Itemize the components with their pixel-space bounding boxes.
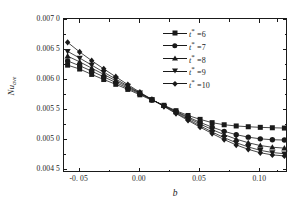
legend-item[interactable]: t* =6	[163, 27, 243, 40]
y-axis-tick	[63, 19, 67, 20]
x-axis-tick-label: 0.00	[132, 174, 146, 183]
legend-marker-triangle-up-icon	[163, 52, 187, 64]
y-axis-minor-tick-right	[285, 64, 288, 65]
legend-label: t* =9	[187, 65, 206, 77]
data-point-marker	[77, 49, 82, 55]
y-axis-minor-tick	[63, 64, 66, 65]
legend-marker-diamond-icon	[163, 78, 187, 90]
y-axis-tick-label: 0.004 5	[37, 165, 60, 173]
legend-marker-circle-icon	[163, 40, 187, 52]
legend-symbol	[172, 43, 177, 48]
y-axis-tick-right	[283, 49, 287, 50]
y-axis-title: Nuave	[6, 77, 18, 96]
legend-value: =10	[195, 81, 210, 90]
data-point-marker	[270, 137, 275, 142]
data-point-marker	[65, 58, 70, 63]
y-axis-tick-label: 0.005 5	[37, 105, 60, 113]
legend-label: t* =6	[187, 27, 206, 39]
legend-marker-triangle-down-icon	[163, 65, 187, 77]
y-axis-title-main: Nu	[6, 85, 16, 96]
legend-symbol	[172, 69, 178, 74]
x-axis-minor-tick-top	[109, 19, 110, 22]
legend-value: =8	[195, 55, 206, 64]
y-axis-tick-label: 0.006 0	[37, 75, 60, 83]
data-point-marker	[234, 123, 239, 128]
legend-item[interactable]: t* =7	[163, 40, 243, 53]
data-point-marker	[246, 134, 251, 139]
x-axis-minor-tick	[109, 170, 110, 173]
x-axis-minor-tick	[277, 170, 278, 173]
y-axis-tick-right	[283, 139, 287, 140]
y-axis-minor-tick-right	[285, 124, 288, 125]
x-axis-tick-top	[139, 19, 140, 23]
chart-figure: 0.007 00.006 50.006 00.005 50.005 00.004…	[0, 0, 307, 211]
circle-icon	[172, 43, 177, 48]
x-axis-tick-label: 0.10	[252, 174, 266, 183]
legend-value: =7	[195, 43, 206, 52]
chart-legend: t* =6t* =7t* =8t* =9t* =10	[163, 27, 243, 90]
legend-symbol	[173, 82, 177, 86]
x-axis-tick	[199, 168, 200, 172]
x-axis-tick-top	[259, 19, 260, 23]
diamond-icon	[172, 81, 178, 87]
data-point-marker	[258, 136, 263, 141]
data-point-marker	[77, 56, 83, 61]
x-axis-minor-tick-top	[169, 19, 170, 22]
legend-item[interactable]: t* =8	[163, 52, 243, 65]
legend-value: =6	[195, 30, 206, 39]
y-axis-tick-right	[283, 169, 287, 170]
x-axis-minor-tick-top	[277, 19, 278, 22]
x-axis-minor-tick	[229, 170, 230, 173]
data-point-marker	[65, 39, 70, 45]
square-icon	[173, 31, 178, 36]
x-axis-title: b	[173, 188, 178, 198]
x-axis-tick-top	[199, 19, 200, 23]
data-point-marker	[210, 120, 215, 125]
y-axis-tick	[63, 139, 67, 140]
x-axis-tick	[79, 168, 80, 172]
x-axis-tick	[259, 168, 260, 172]
data-point-marker	[222, 122, 227, 127]
data-point-marker	[258, 125, 263, 130]
y-axis-tick	[63, 169, 67, 170]
y-axis-tick-label: 0.007 0	[37, 15, 60, 23]
data-point-marker	[246, 124, 251, 129]
y-axis-tick-label: 0.005 0	[37, 135, 60, 143]
legend-value: =9	[195, 68, 206, 77]
y-axis-tick-right	[283, 19, 287, 20]
x-axis-tick-label: -0. 05	[69, 174, 87, 183]
data-point-marker	[270, 125, 275, 130]
y-axis-tick-right	[283, 79, 287, 80]
x-axis-tick	[139, 168, 140, 172]
legend-label: t* =10	[187, 78, 210, 90]
x-axis-minor-tick-top	[229, 19, 230, 22]
legend-marker-square-icon	[163, 27, 187, 39]
y-axis-minor-tick	[63, 34, 66, 35]
y-axis-title-sub: ave	[11, 77, 17, 85]
legend-item[interactable]: t* =9	[163, 65, 243, 78]
y-axis-minor-tick-right	[285, 154, 288, 155]
triangle-down-icon	[172, 69, 178, 74]
y-axis-minor-tick	[63, 94, 66, 95]
x-axis-tick-top	[79, 19, 80, 23]
x-axis-tick-label: 0.05	[192, 174, 206, 183]
y-axis-tick	[63, 79, 67, 80]
y-axis-minor-tick-right	[285, 94, 288, 95]
triangle-up-icon	[172, 56, 178, 61]
x-axis-minor-tick	[169, 170, 170, 173]
y-axis-tick-right	[283, 109, 287, 110]
y-axis-tick-labels: 0.007 00.006 50.006 00.005 50.005 00.004…	[0, 0, 60, 211]
y-axis-tick	[63, 49, 67, 50]
y-axis-minor-tick	[63, 154, 66, 155]
data-point-marker	[113, 74, 118, 80]
legend-label: t* =7	[187, 40, 206, 52]
data-point-marker	[234, 142, 239, 148]
legend-label: t* =8	[187, 53, 206, 65]
legend-item[interactable]: t* =10	[163, 77, 243, 90]
y-axis-tick-label: 0.006 5	[37, 45, 60, 53]
y-axis-minor-tick-right	[285, 34, 288, 35]
legend-symbol	[172, 56, 178, 61]
y-axis-minor-tick	[63, 124, 66, 125]
data-point-marker	[282, 126, 287, 131]
legend-symbol	[173, 31, 178, 36]
